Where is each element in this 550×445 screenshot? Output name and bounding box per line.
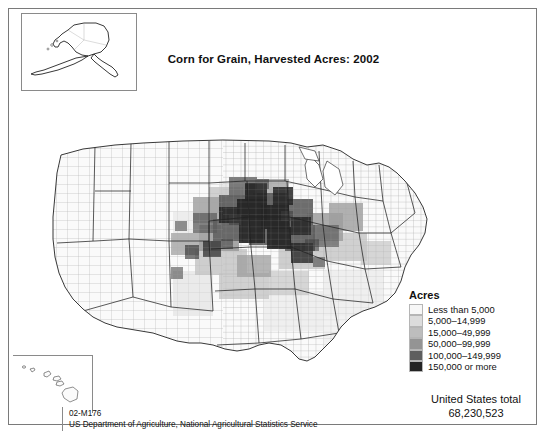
legend-label-2: 5,000–14,999 <box>428 315 485 326</box>
legend-label-1: Less than 5,000 <box>428 304 495 315</box>
legend-item: 15,000–49,999 <box>405 327 531 338</box>
us-total-block: United States total 68,230,523 <box>413 392 539 420</box>
figure-footer: 02-M176 US Department of Agriculture, Na… <box>69 409 317 430</box>
conus-choropleth <box>23 121 463 411</box>
legend-label-6: 150,000 or more <box>428 361 497 372</box>
legend-swatch-4 <box>409 338 423 349</box>
source-line: US Department of Agriculture, National A… <box>69 420 317 431</box>
legend-item: 5,000–14,999 <box>405 315 531 326</box>
product-code: 02-M176 <box>69 409 317 420</box>
us-county-choropleth <box>23 121 463 411</box>
legend-item: Less than 5,000 <box>405 304 531 315</box>
us-total-value: 68,230,523 <box>413 406 539 420</box>
legend-label-5: 100,000–149,999 <box>428 350 501 361</box>
footer-divider <box>62 407 63 431</box>
legend-swatch-2 <box>409 315 423 326</box>
legend-item: 100,000–149,999 <box>405 350 531 361</box>
legend-swatch-1 <box>409 304 423 315</box>
legend-swatch-5 <box>409 350 423 361</box>
legend-title: Acres <box>409 289 531 301</box>
us-total-label: United States total <box>413 392 539 406</box>
figure-frame: Corn for Grain, Harvested Acres: 2002 <box>8 8 537 425</box>
legend-label-4: 50,000–99,999 <box>428 338 491 349</box>
map-legend: Acres Less than 5,000 5,000–14,999 15,00… <box>405 289 531 372</box>
legend-swatch-3 <box>409 327 423 338</box>
legend-swatch-6 <box>409 361 423 372</box>
map-figure: Corn for Grain, Harvested Acres: 2002 <box>0 0 550 445</box>
legend-item: 50,000–99,999 <box>405 338 531 349</box>
alaska-inset <box>21 13 137 91</box>
legend-label-3: 15,000–49,999 <box>428 327 491 338</box>
page-title: Corn for Grain, Harvested Acres: 2002 <box>9 53 538 65</box>
legend-item: 150,000 or more <box>405 361 531 372</box>
